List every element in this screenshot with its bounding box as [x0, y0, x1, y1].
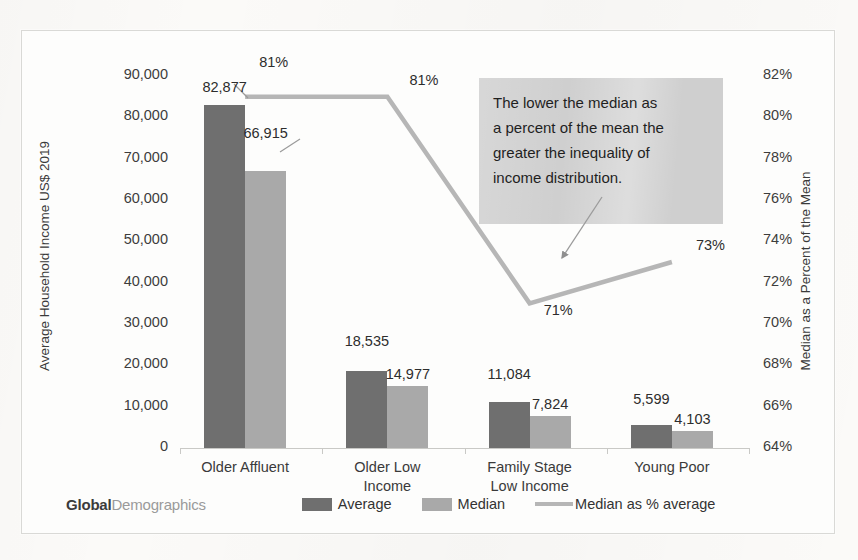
chart-legend: GlobalDemographics Average Median Median…	[44, 491, 834, 517]
line-label-0: 81%	[259, 54, 288, 70]
bar-label-average-0: 82,877	[195, 79, 255, 95]
annotation-line-3: greater the inequality of	[493, 140, 709, 165]
x-tickmark-1	[322, 448, 323, 454]
x-category-label-3: Young Poor	[601, 458, 743, 477]
bar-label-median-2: 7,824	[520, 396, 580, 412]
y-tick-left-3: 30,000	[22, 314, 168, 330]
x-tickmark-3	[607, 448, 608, 454]
legend-swatch-median-icon	[422, 498, 452, 511]
legend-line-icon	[535, 502, 573, 506]
annotation-line-4: income distribution.	[493, 165, 709, 190]
y-axis-right-title: Median as a Percent of the Mean	[794, 91, 816, 451]
y-tick-right-2: 68%	[763, 355, 792, 371]
y-tick-left-6: 60,000	[22, 190, 168, 206]
y-tick-right-9: 82%	[763, 66, 792, 82]
bar-label-median-0: 66,915	[236, 125, 296, 141]
y-tick-left-0: 0	[22, 438, 168, 454]
legend-item-median[interactable]: Median	[422, 496, 506, 512]
y-axis-left-title-text: Average Household Income US$ 2019	[37, 141, 52, 371]
bar-label-average-1: 18,535	[337, 333, 397, 349]
annotation-callout: The lower the median as a percent of the…	[479, 78, 723, 224]
x-category-label-0: Older Affluent	[174, 458, 316, 477]
y-tick-right-8: 80%	[763, 107, 792, 123]
y-tick-left-2: 20,000	[22, 355, 168, 371]
y-tick-left-4: 40,000	[22, 273, 168, 289]
annotation-line-2: a percent of the mean the	[493, 115, 709, 140]
legend-item-median-percent[interactable]: Median as % average	[535, 496, 715, 512]
x-tickmark-2	[465, 448, 466, 454]
y-axis-right-title-text: Median as a Percent of the Mean	[798, 172, 813, 371]
bar-label-median-3: 4,103	[662, 411, 722, 427]
y-tick-right-5: 74%	[763, 231, 792, 247]
y-tick-left-1: 10,000	[22, 397, 168, 413]
x-tickmark-0	[180, 448, 181, 454]
page-background: Average Household Income US$ 2019 Median…	[0, 0, 858, 560]
legend-item-average[interactable]: Average	[302, 496, 392, 512]
chart-frame: Average Household Income US$ 2019 Median…	[21, 30, 835, 534]
line-label-3: 73%	[696, 237, 725, 253]
y-tick-right-6: 76%	[763, 190, 792, 206]
y-tick-left-9: 90,000	[22, 66, 168, 82]
legend-swatch-average-icon	[302, 498, 332, 511]
line-label-1: 81%	[409, 72, 438, 88]
legend-label-median-percent: Median as % average	[575, 496, 715, 512]
logo-light-text: Demographics	[111, 496, 205, 513]
y-tick-left-7: 70,000	[22, 149, 168, 165]
y-tick-right-7: 78%	[763, 149, 792, 165]
y-tick-left-8: 80,000	[22, 107, 168, 123]
annotation-line-1: The lower the median as	[493, 90, 709, 115]
logo-bold-text: Global	[66, 496, 111, 513]
line-label-2: 71%	[544, 302, 573, 318]
bar-label-median-1: 14,977	[378, 366, 438, 382]
y-tick-right-3: 70%	[763, 314, 792, 330]
global-demographics-logo: GlobalDemographics	[66, 496, 206, 513]
y-tick-right-1: 66%	[763, 397, 792, 413]
legend-label-median: Median	[458, 496, 506, 512]
y-tick-right-4: 72%	[763, 273, 792, 289]
bar-label-average-3: 5,599	[621, 391, 681, 407]
legend-label-average: Average	[338, 496, 392, 512]
x-tickmark-4	[749, 448, 750, 454]
y-tick-left-5: 50,000	[22, 231, 168, 247]
y-tick-right-0: 64%	[763, 438, 792, 454]
y-axis-left-title: Average Household Income US$ 2019	[34, 91, 54, 421]
bar-label-average-2: 11,084	[479, 366, 539, 382]
